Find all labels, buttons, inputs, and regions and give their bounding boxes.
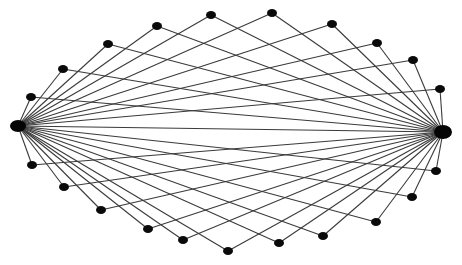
graph-node-t7 [327, 20, 337, 28]
graph-node-t5 [206, 11, 216, 19]
edge-R-t8 [377, 43, 443, 132]
graph-node-b10 [407, 193, 417, 201]
edge-R-b7 [279, 132, 443, 243]
hub-node-R [434, 125, 452, 139]
edge-R-t6 [272, 13, 443, 132]
edge-L-t4 [18, 26, 157, 126]
edge-R-t7 [332, 24, 443, 132]
graph-node-t4 [152, 22, 162, 30]
edge-R-b4 [148, 132, 443, 229]
graph-node-b5 [178, 236, 188, 244]
graph-diagram [0, 0, 462, 265]
graph-node-b6 [223, 247, 233, 255]
hub-node-L [10, 120, 26, 132]
graph-node-b8 [318, 232, 328, 240]
edge-R-b1 [32, 132, 443, 165]
graph-node-b3 [96, 206, 106, 214]
edge-R-b10 [412, 132, 443, 197]
edge-R-b2 [64, 132, 443, 187]
graph-node-t1 [26, 93, 36, 101]
graph-node-b7 [274, 239, 284, 247]
edge-L-t7 [18, 24, 332, 126]
edge-R-b3 [101, 132, 443, 210]
graph-node-t8 [372, 39, 382, 47]
graph-node-t6 [267, 9, 277, 17]
graph-node-b11 [431, 167, 441, 175]
edge-L-b9 [18, 126, 376, 222]
graph-node-t10 [435, 85, 445, 93]
graph-node-t9 [408, 56, 418, 64]
graph-node-b9 [371, 218, 381, 226]
graph-node-b2 [59, 183, 69, 191]
graph-node-b4 [143, 225, 153, 233]
graph-node-t3 [103, 40, 113, 48]
edge-R-t4 [157, 26, 443, 132]
edge-R-t3 [108, 44, 443, 132]
edge-L-b5 [18, 126, 183, 240]
edge-L-t8 [18, 43, 377, 126]
graph-node-b1 [27, 161, 37, 169]
edge-R-t2 [63, 69, 443, 132]
edge-layer [18, 13, 443, 251]
edge-L-t6 [18, 13, 272, 126]
graph-node-t2 [58, 65, 68, 73]
